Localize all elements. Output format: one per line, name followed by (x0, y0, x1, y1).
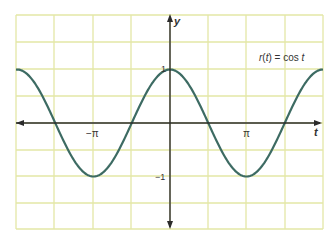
function-label: r(t) = cos t (259, 52, 306, 63)
t-axis-label: t (314, 126, 319, 138)
y-tick-one: 1 (161, 64, 166, 74)
axes (16, 14, 322, 229)
y-axis-label: y (173, 15, 181, 27)
x-tick-neg-pi: −π (86, 128, 99, 139)
y-tick-neg-one: −1 (155, 172, 165, 182)
cosine-chart: y t −π π 1 −1 r(t) = cos t (0, 0, 332, 242)
t-axis-left-arrow-icon (16, 120, 24, 126)
x-tick-pi: π (243, 128, 250, 139)
y-axis-down-arrow-icon (167, 221, 173, 229)
